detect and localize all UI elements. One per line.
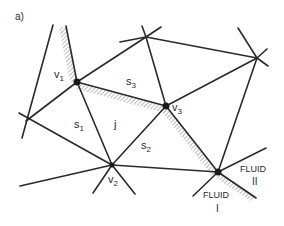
vertex-v2 [110,163,115,168]
vertex-v1 [74,79,81,86]
label-fluid-1-numeral: I [216,203,219,214]
label-v3: v3 [172,101,183,116]
panel-label: a) [15,11,24,22]
label-s2: s2 [141,139,152,154]
label-fluid-1-name: FLUID [203,190,230,200]
mesh-edges [19,25,268,198]
label-s1: s1 [74,118,85,133]
vertex-fluid-junction [215,169,222,176]
label-v1: v1 [54,68,65,83]
triangular-mesh-diagram: a) v1 v2 v3 s1 s2 s3 j FLUID II FLUID I [0,0,284,226]
vertex-v3 [163,103,170,110]
label-v2: v2 [108,173,119,188]
label-s3: s3 [126,75,137,90]
label-j: j [113,118,116,130]
label-fluid-2-numeral: II [252,176,258,187]
label-fluid-2-name: FLUID [240,164,267,174]
